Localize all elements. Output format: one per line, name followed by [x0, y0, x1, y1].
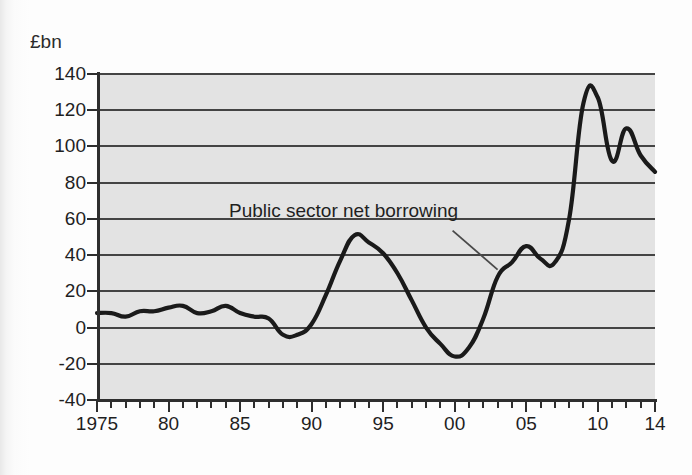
- chart-figure: £bn 140120100806040200-20-40 19758085909…: [0, 0, 692, 475]
- annotation-leader-line: [0, 0, 692, 475]
- leader-line: [453, 231, 498, 270]
